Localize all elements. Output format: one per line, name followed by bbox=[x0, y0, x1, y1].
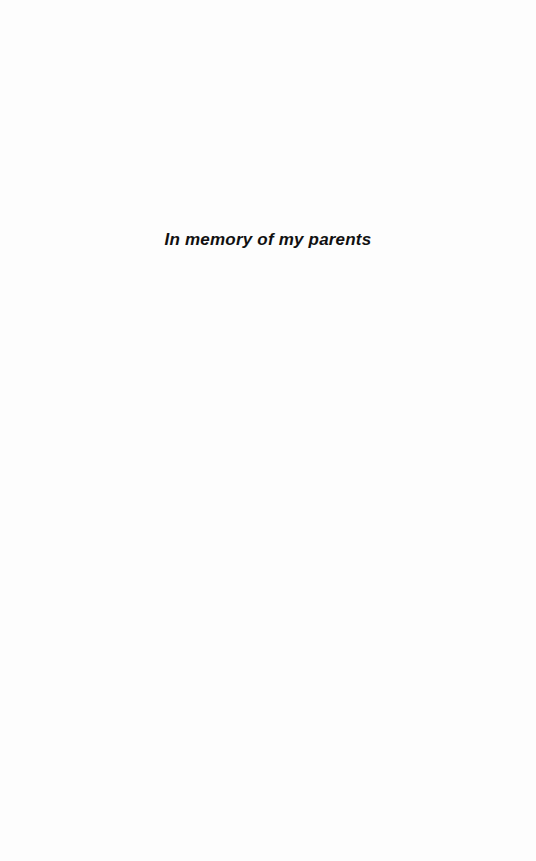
dedication-text: In memory of my parents bbox=[0, 230, 536, 250]
book-page: In memory of my parents bbox=[0, 0, 536, 861]
